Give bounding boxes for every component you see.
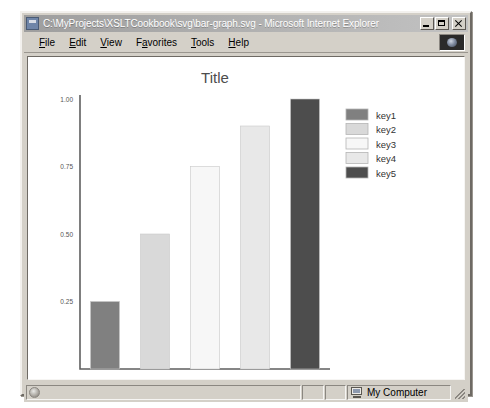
status-bar: My Computer <box>24 383 468 402</box>
security-zone-label: My Computer <box>367 387 427 398</box>
menu-item-edit-label: dit <box>76 37 87 48</box>
my-computer-icon <box>351 387 363 398</box>
page-status-icon <box>29 387 40 398</box>
y-axis-tick-label: 0.25 <box>60 298 73 305</box>
bar-key4[interactable] <box>241 126 270 369</box>
legend-label-key5: key5 <box>376 168 396 179</box>
internet-explorer-window: C:\MyProjects\XSLTCookbook\svg\bar-graph… <box>20 11 472 396</box>
legend-label-key1: key1 <box>376 110 396 121</box>
menu-item-file-label: ile <box>45 37 55 48</box>
bar-key2[interactable] <box>141 234 170 369</box>
menu-item-view-label: iew <box>107 37 122 48</box>
legend-swatch-key5[interactable] <box>346 167 368 178</box>
title-bar[interactable]: C:\MyProjects\XSLTCookbook\svg\bar-graph… <box>24 15 468 32</box>
close-button[interactable] <box>452 17 466 30</box>
desktop-background: C:\MyProjects\XSLTCookbook\svg\bar-graph… <box>0 0 490 408</box>
menu-item-view[interactable]: View <box>93 35 129 50</box>
menu-item-help[interactable]: Help <box>221 35 256 50</box>
menu-bar: File Edit View Favorites Tools Help <box>24 33 468 52</box>
y-axis-tick-label: 0.75 <box>60 163 73 170</box>
browser-client-area: Title0.250.500.751.00key1key2key3key4key… <box>24 53 468 383</box>
bar-key5[interactable] <box>291 99 320 369</box>
menu-item-edit[interactable]: Edit <box>62 35 93 50</box>
legend-label-key4: key4 <box>376 153 396 164</box>
legend-label-key2: key2 <box>376 124 396 135</box>
menu-item-tools[interactable]: Tools <box>184 35 221 50</box>
svg-document-icon <box>26 17 39 30</box>
legend-swatch-key2[interactable] <box>346 124 368 135</box>
menu-item-list: File Edit View Favorites Tools Help <box>24 35 439 50</box>
maximize-button[interactable] <box>435 17 449 30</box>
legend-swatch-key3[interactable] <box>346 138 368 149</box>
minimize-button[interactable] <box>420 17 434 30</box>
bar-key3[interactable] <box>191 167 220 370</box>
status-panel-progress <box>302 385 324 400</box>
menu-item-file[interactable]: File <box>32 35 62 50</box>
menu-item-tools-label: ools <box>196 37 214 48</box>
menu-item-favorites-label: vorites <box>148 37 177 48</box>
chart-title: Title <box>201 69 229 86</box>
status-message-panel <box>26 385 301 400</box>
legend-swatch-key1[interactable] <box>346 109 368 120</box>
y-axis-tick-label: 0.50 <box>60 231 73 238</box>
y-axis-tick-label: 1.00 <box>60 96 73 103</box>
bar-key1[interactable] <box>91 302 120 370</box>
legend-label-key3: key3 <box>376 139 396 150</box>
ie-logo-animation-icon[interactable] <box>439 34 465 51</box>
legend-swatch-key4[interactable] <box>346 153 368 164</box>
menu-item-favorites[interactable]: Favorites <box>129 35 184 50</box>
svg-viewport: Title0.250.500.751.00key1key2key3key4key… <box>27 56 465 380</box>
security-zone-panel[interactable]: My Computer <box>347 385 451 400</box>
resize-grip[interactable] <box>452 385 466 400</box>
status-panel-spacer <box>325 385 346 400</box>
menu-item-help-label: elp <box>236 37 249 48</box>
bar-chart: Title0.250.500.751.00key1key2key3key4key… <box>28 57 464 379</box>
window-title: C:\MyProjects\XSLTCookbook\svg\bar-graph… <box>43 18 419 29</box>
